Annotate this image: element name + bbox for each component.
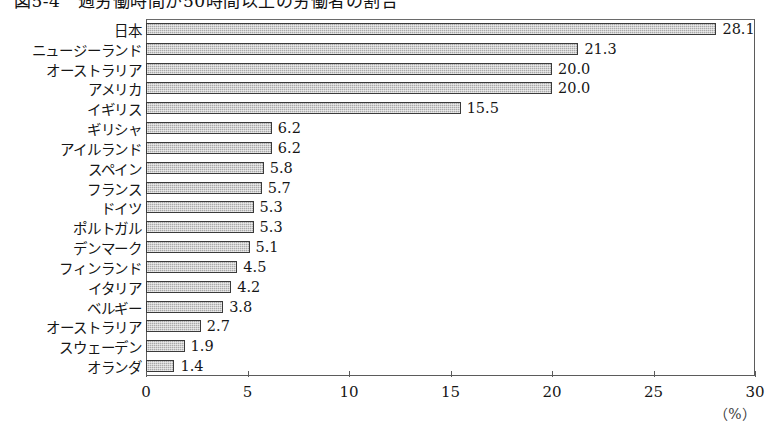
bar-value-label: 6.2 [278,140,301,156]
category-label: ギリシャ [87,118,142,139]
category-label: スペイン [88,157,142,178]
bar-value-label: 1.4 [180,358,203,374]
category-label: フィンランド [59,256,142,277]
bar [146,320,201,332]
bar-row: アイルランド6.2 [0,138,773,158]
category-label: オランダ [87,356,142,377]
bar-row: デンマーク5.1 [0,237,773,257]
bar-rows: 日本28.1ニュージーランド21.3オーストラリア20.0アメリカ20.0イギリ… [0,19,773,376]
bar-row: オーストラリア2.7 [0,317,773,337]
bar-row: フランス5.7 [0,178,773,198]
bar [146,261,237,273]
bar [146,82,552,94]
bar [146,43,578,55]
category-label: ニュージーランド [32,38,142,59]
bar-row: ニュージーランド21.3 [0,39,773,59]
bar [146,122,272,134]
figure-container: 図5-4 週労働時間が50時間以上の労働者の割合 日本28.1ニュージーランド2… [0,0,773,444]
bar-row: ドイツ5.3 [0,198,773,218]
bar [146,182,262,194]
x-axis-tick-label: 25 [644,383,663,401]
bar-row: オーストラリア20.0 [0,59,773,79]
x-axis-tick [248,371,249,377]
x-axis-tick [349,371,350,377]
bar [146,23,716,35]
bar-value-label: 1.9 [191,338,214,354]
category-label: デンマーク [73,237,142,258]
bar-row: 日本28.1 [0,19,773,39]
bar-value-label: 5.7 [268,180,291,196]
bar-value-label: 4.5 [243,259,266,275]
x-axis-tick [146,371,147,377]
bar-value-label: 21.3 [584,41,616,57]
x-axis-tick [451,371,452,377]
bar-value-label: 5.3 [260,219,283,235]
bar [146,221,254,233]
category-label: イギリス [87,98,142,119]
x-axis-tick-label: 0 [141,383,151,401]
x-axis-tick-label: 20 [542,383,561,401]
x-axis-tick [654,371,655,377]
bar-value-label: 3.8 [229,299,252,315]
bar [146,63,552,75]
x-axis-tick-label: 30 [745,383,764,401]
bar [146,142,272,154]
bar-row: ポルトガル5.3 [0,217,773,237]
bar-value-label: 2.7 [207,318,230,334]
page-title: 図5-4 週労働時間が50時間以上の労働者の割合 [14,0,398,12]
bar-value-label: 5.1 [256,239,279,255]
category-label: スウェーデン [59,336,142,357]
x-axis-tick [552,371,553,377]
category-label: ベルギー [87,296,142,317]
bar-row: ベルギー3.8 [0,297,773,317]
bar-value-label: 15.5 [467,100,499,116]
category-label: アイルランド [60,137,142,158]
x-axis-tick [755,371,756,377]
bar-row: アメリカ20.0 [0,79,773,99]
bar [146,201,254,213]
category-label: オーストラリア [46,316,142,337]
bar-row: イタリア4.2 [0,277,773,297]
category-label: アメリカ [88,78,142,99]
bar-row: スウェーデン1.9 [0,336,773,356]
bar [146,241,250,253]
x-axis-tick-label: 15 [441,383,460,401]
category-label: イタリア [88,276,142,297]
bar [146,340,185,352]
bar-row: オランダ1.4 [0,356,773,376]
axis-unit-label: （%） [714,403,755,423]
bar [146,301,223,313]
bar-value-label: 28.1 [722,21,754,37]
bar-row: フィンランド4.5 [0,257,773,277]
bar-row: スペイン5.8 [0,158,773,178]
bar-row: イギリス15.5 [0,98,773,118]
category-label: ポルトガル [73,217,142,238]
bar-row: ギリシャ6.2 [0,118,773,138]
category-label: オーストラリア [46,58,142,79]
bar-value-label: 4.2 [237,279,260,295]
x-axis-tick-label: 5 [243,383,253,401]
bar [146,162,264,174]
category-label: ドイツ [101,197,142,218]
x-axis-tick-label: 10 [339,383,358,401]
bar-value-label: 5.8 [270,160,293,176]
bar [146,360,174,372]
bar-value-label: 20.0 [558,61,590,77]
bar [146,102,461,114]
category-label: フランス [87,177,142,198]
bar-value-label: 5.3 [260,199,283,215]
bar-value-label: 6.2 [278,120,301,136]
bar-value-label: 20.0 [558,80,590,96]
category-label: 日本 [114,18,142,39]
bar [146,281,231,293]
